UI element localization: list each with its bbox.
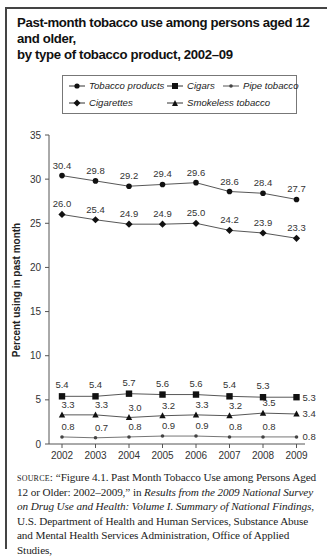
source-prefix: source: [17, 471, 53, 483]
y-tick-label: 25 [30, 218, 42, 229]
data-label: 3.2 [229, 400, 242, 411]
square-marker-icon [193, 391, 199, 397]
circle-marker-icon [294, 197, 300, 203]
data-label: 0.8 [303, 431, 316, 442]
data-label: 3.5 [262, 397, 275, 408]
diamond-marker-icon [92, 216, 99, 223]
data-label: 24.2 [220, 214, 239, 225]
x-tick-label: 2004 [118, 450, 141, 461]
y-tick-label: 10 [30, 350, 42, 361]
asterisk-marker-icon [60, 435, 64, 439]
asterisk-marker-icon [295, 435, 299, 439]
diamond-marker-icon [293, 235, 300, 242]
data-label: 5.3 [303, 392, 316, 403]
line-chart: 0510152025303520022003200420052006200720… [0, 0, 319, 470]
series-smokeless-tobacco: 3.33.33.03.23.33.23.53.4 [59, 397, 316, 420]
diamond-marker-icon [259, 229, 266, 236]
y-tick-label: 0 [35, 439, 41, 450]
data-label: 5.4 [55, 379, 68, 390]
y-tick-label: 15 [30, 306, 42, 317]
circle-marker-icon [160, 182, 166, 188]
data-label: 3.3 [95, 399, 108, 410]
data-label: 3.4 [303, 408, 316, 419]
triangle-marker-icon [193, 411, 199, 417]
data-label: 28.6 [220, 176, 239, 187]
diamond-marker-icon [58, 211, 65, 218]
data-label: 5.4 [89, 379, 102, 390]
diamond-marker-icon [226, 227, 233, 234]
data-label: 26.0 [53, 198, 72, 209]
circle-marker-icon [193, 180, 199, 186]
square-marker-icon [126, 390, 132, 396]
data-label: 3.0 [128, 402, 141, 413]
square-marker-icon [226, 393, 232, 399]
asterisk-marker-icon [161, 434, 165, 438]
data-label: 23.3 [287, 222, 306, 233]
circle-marker-icon [260, 190, 266, 196]
data-label: 5.3 [256, 380, 269, 391]
x-tick-label: 2006 [185, 450, 208, 461]
y-tick-label: 20 [30, 262, 42, 273]
diamond-marker-icon [159, 221, 166, 228]
data-label: 0.9 [195, 420, 208, 431]
data-label: 5.6 [189, 378, 202, 389]
data-label: 0.7 [95, 422, 108, 433]
data-label: 29.8 [86, 165, 105, 176]
y-axis-label: Percent using in past month [11, 223, 22, 357]
data-label: 24.9 [120, 208, 139, 219]
data-label: 5.4 [223, 379, 236, 390]
circle-marker-icon [59, 173, 65, 179]
data-label: 25.0 [187, 207, 206, 218]
y-tick-label: 5 [35, 394, 41, 405]
x-tick-label: 2007 [218, 450, 241, 461]
data-label: 0.8 [128, 421, 141, 432]
asterisk-marker-icon [127, 435, 131, 439]
data-label: 3.2 [162, 400, 175, 411]
data-label: 27.7 [287, 183, 306, 194]
circle-marker-icon [126, 183, 132, 189]
data-label: 0.8 [61, 421, 74, 432]
data-label: 0.8 [262, 421, 275, 432]
diamond-marker-icon [125, 221, 132, 228]
circle-marker-icon [227, 189, 233, 195]
data-label: 30.4 [53, 160, 72, 171]
data-label: 29.6 [187, 167, 206, 178]
asterisk-marker-icon [194, 434, 198, 438]
source-note: source: “Figure 4.1. Past Month Tobacco … [17, 470, 317, 558]
data-label: 28.4 [254, 177, 273, 188]
data-label: 25.4 [86, 204, 105, 215]
data-label: 29.2 [120, 170, 139, 181]
series-pipe-tobacco: 0.80.70.80.90.90.80.80.8 [60, 420, 316, 442]
asterisk-marker-icon [228, 435, 232, 439]
y-tick-label: 35 [30, 130, 42, 141]
square-marker-icon [293, 394, 299, 400]
y-tick-label: 30 [30, 174, 42, 185]
x-tick-label: 2002 [51, 450, 74, 461]
asterisk-marker-icon [94, 436, 98, 440]
series-tobacco-products: 30.429.829.229.429.628.628.427.7 [53, 160, 306, 203]
data-label: 0.9 [162, 420, 175, 431]
square-marker-icon [159, 391, 165, 397]
data-label: 3.3 [195, 399, 208, 410]
data-label: 3.3 [61, 399, 74, 410]
asterisk-marker-icon [261, 435, 265, 439]
data-label: 29.4 [153, 168, 172, 179]
data-label: 5.6 [156, 378, 169, 389]
data-label: 5.7 [122, 377, 135, 388]
diamond-marker-icon [192, 220, 199, 227]
chart-series: 30.429.829.229.429.628.628.427.726.025.4… [53, 160, 316, 443]
x-tick-label: 2008 [252, 450, 275, 461]
x-tick-label: 2005 [151, 450, 174, 461]
data-label: 23.9 [254, 217, 273, 228]
x-tick-label: 2003 [84, 450, 107, 461]
circle-marker-icon [93, 178, 99, 184]
data-label: 0.8 [229, 421, 242, 432]
data-label: 24.9 [153, 208, 172, 219]
triangle-marker-icon [260, 410, 266, 416]
series-cigarettes: 26.025.424.924.925.024.223.923.3 [53, 198, 306, 241]
x-tick-label: 2009 [285, 450, 308, 461]
